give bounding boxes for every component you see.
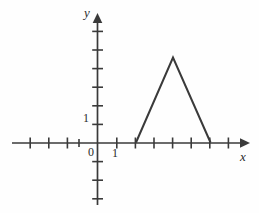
x-axis-label: x [240,150,246,163]
y-axis-label: y [84,6,90,19]
coordinate-plot [0,0,259,213]
x-axis-arrowhead [240,138,250,148]
origin-tick-label: 0 [88,146,94,158]
triangular-pulse-curve [136,58,211,143]
graph-figure: y x 0 1 1 [0,0,259,213]
y-axis-arrowhead [93,13,103,23]
x-axis-unit-tick-label: 1 [112,147,118,159]
y-axis-unit-tick-label: 1 [83,112,89,124]
